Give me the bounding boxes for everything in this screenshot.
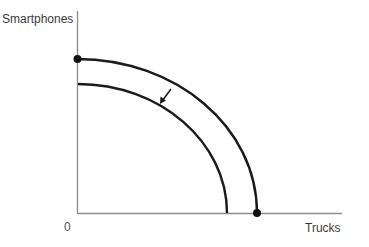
outer-x-intercept-dot <box>253 209 261 217</box>
y-axis-label: Smartphones <box>2 12 73 26</box>
outer-y-intercept-dot <box>74 55 82 63</box>
x-axis-label: Trucks <box>305 221 341 235</box>
shift-arrow-icon <box>160 89 171 104</box>
outer-ppf-curve <box>77 59 257 213</box>
origin-label: 0 <box>64 220 71 234</box>
ppf-chart <box>0 0 369 247</box>
